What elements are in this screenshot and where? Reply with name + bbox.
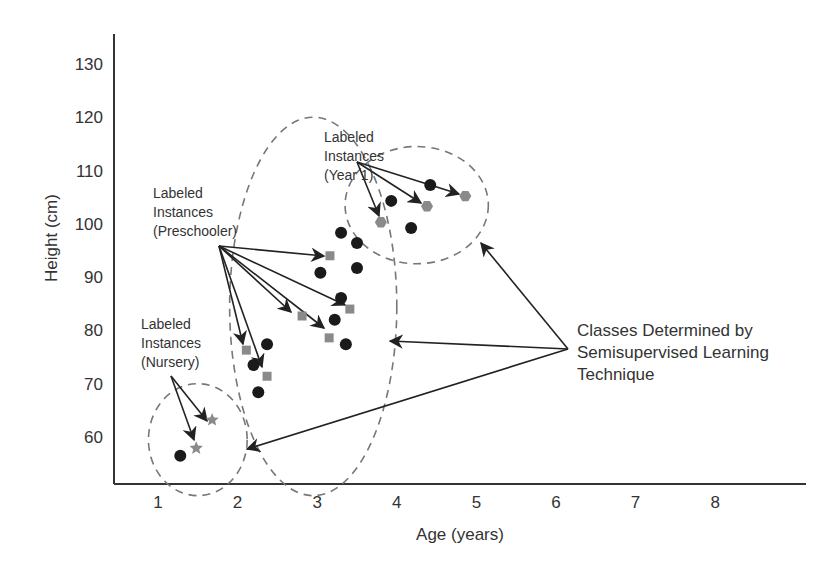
y-tick-label: 130	[75, 55, 103, 74]
x-tick-label: 6	[551, 493, 560, 512]
unlabeled-point-icon	[335, 227, 347, 239]
y-axis-label: Height (cm)	[42, 194, 61, 282]
x-tick-label: 5	[472, 493, 481, 512]
labeled-square-icon	[325, 251, 334, 260]
x-axis-label: Age (years)	[416, 525, 504, 544]
labeled-hexagon-icon	[375, 217, 387, 227]
labeled-square-icon	[298, 312, 307, 321]
y-tick-label: 110	[76, 162, 103, 181]
unlabeled-point-icon	[314, 267, 326, 279]
label-nursery: Labeled Instances (Nursery)	[141, 316, 205, 370]
y-tick-label: 100	[75, 215, 103, 234]
data-points	[174, 179, 471, 462]
unlabeled-point-icon	[248, 359, 260, 371]
y-tick-label: 70	[84, 375, 103, 394]
unlabeled-point-icon	[340, 338, 352, 350]
y-tick-label: 120	[75, 108, 103, 127]
unlabeled-point-icon	[351, 262, 363, 274]
labeled-star-icon	[206, 413, 219, 426]
labeled-star-icon	[190, 441, 203, 454]
y-tick-labels: 60708090100110120130	[75, 55, 103, 447]
annotation-arrows	[171, 162, 568, 449]
labeled-square-icon	[242, 346, 251, 355]
unlabeled-point-icon	[261, 338, 273, 350]
label-preschooler: Labeled Instances (Preschooler)	[153, 185, 237, 239]
y-tick-label: 60	[84, 428, 103, 447]
labeled-square-icon	[263, 372, 272, 381]
unlabeled-point-icon	[385, 195, 397, 207]
labeled-hexagon-icon	[459, 191, 471, 201]
unlabeled-point-icon	[335, 292, 347, 304]
y-tick-label: 90	[84, 268, 103, 287]
label-classes: Classes Determined by Semisupervised Lea…	[577, 321, 774, 384]
x-tick-label: 4	[392, 493, 401, 512]
axes: 60708090100110120130 12345678 Age (years…	[42, 34, 806, 544]
labeled-square-icon	[325, 333, 334, 342]
unlabeled-point-icon	[424, 179, 436, 191]
unlabeled-point-icon	[329, 314, 341, 326]
cluster-ellipses	[148, 117, 488, 495]
unlabeled-point-icon	[405, 222, 417, 234]
unlabeled-point-icon	[351, 237, 363, 249]
unlabeled-point-icon	[252, 386, 264, 398]
annotations: Labeled Instances (Year 1) Labeled Insta…	[141, 129, 774, 384]
scatter-diagram: 60708090100110120130 12345678 Age (years…	[0, 0, 832, 567]
y-tick-label: 80	[84, 321, 103, 340]
x-tick-label: 2	[233, 493, 242, 512]
x-tick-label: 3	[312, 493, 321, 512]
cluster-ellipse-year-1	[345, 147, 488, 264]
labeled-hexagon-icon	[421, 201, 433, 211]
x-tick-label: 7	[631, 493, 640, 512]
labeled-square-icon	[345, 305, 354, 314]
x-tick-labels: 12345678	[153, 493, 720, 512]
unlabeled-point-icon	[174, 450, 186, 462]
x-tick-label: 1	[153, 493, 162, 512]
cluster-ellipse-nursery	[148, 384, 247, 496]
x-tick-label: 8	[710, 493, 719, 512]
